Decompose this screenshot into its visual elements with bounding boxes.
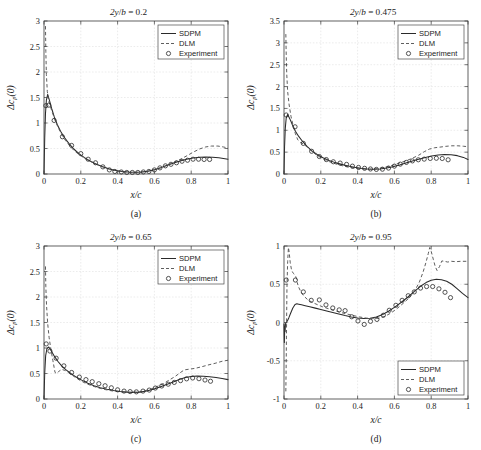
svg-text:0.8: 0.8 — [186, 177, 196, 186]
panel-title: 2y/b = 0.65 — [110, 232, 152, 242]
legend-sdpm-label: SDPM — [419, 365, 441, 374]
svg-text:1: 1 — [226, 402, 230, 411]
panel-caption: (b) — [371, 209, 382, 220]
legend-sdpm-label: SDPM — [179, 254, 201, 263]
y-axis-label: Δcp(0) — [245, 85, 257, 110]
series-experiment-markers — [44, 103, 212, 175]
series-experiment-markers — [44, 342, 213, 394]
svg-text:0: 0 — [36, 395, 40, 404]
svg-text:0.2: 0.2 — [316, 177, 326, 186]
svg-text:1: 1 — [36, 344, 40, 353]
svg-text:-1: -1 — [273, 395, 280, 404]
chart-panel-a: 2y/b = 0.200.20.40.60.8100.511.522.53x/c… — [0, 0, 240, 225]
x-axis-label: x/c — [369, 189, 382, 200]
y-axis-label: Δcp(0) — [5, 85, 17, 110]
svg-text:2: 2 — [36, 293, 40, 302]
legend-dlm-label: DLM — [419, 39, 435, 48]
svg-text:0.8: 0.8 — [426, 177, 436, 186]
svg-text:0.5: 0.5 — [30, 370, 40, 379]
x-axis-label: x/c — [129, 189, 142, 200]
legend-dlm-label: DLM — [179, 39, 195, 48]
svg-text:0: 0 — [282, 177, 286, 186]
chart-panel-d: 2y/b = 0.9500.20.40.60.81-1-0.500.51x/cΔ… — [240, 225, 480, 450]
chart-panel-c: 2y/b = 0.6500.20.40.60.8100.511.522.53x/… — [0, 225, 240, 450]
svg-text:0.5: 0.5 — [30, 145, 40, 154]
series-sdpm-line — [44, 94, 228, 174]
panel-caption: (a) — [131, 209, 141, 220]
svg-text:Δcp(0): Δcp(0) — [5, 85, 17, 110]
svg-text:Δcp(0): Δcp(0) — [245, 85, 257, 110]
svg-text:0.6: 0.6 — [149, 177, 159, 186]
svg-text:0: 0 — [42, 177, 46, 186]
series-experiment-markers — [284, 278, 453, 327]
legend-experiment-label: Experiment — [179, 49, 218, 58]
legend: SDPMDLMExperiment — [398, 361, 464, 395]
svg-text:Δcp(0): Δcp(0) — [245, 310, 257, 335]
svg-text:2.5: 2.5 — [30, 268, 40, 277]
svg-text:0.6: 0.6 — [389, 402, 399, 411]
svg-text:0.4: 0.4 — [112, 177, 123, 186]
chart-panel-b: 2y/b = 0.47500.20.40.60.8100.511.522.533… — [240, 0, 480, 225]
svg-text:0.4: 0.4 — [352, 402, 363, 411]
svg-text:0.8: 0.8 — [426, 402, 436, 411]
svg-text:3: 3 — [36, 17, 40, 26]
svg-text:2y/b = 0.475: 2y/b = 0.475 — [350, 7, 397, 17]
legend: SDPMDLMExperiment — [158, 250, 224, 284]
panel-title: 2y/b = 0.2 — [110, 7, 147, 17]
svg-text:0: 0 — [42, 402, 46, 411]
svg-text:1: 1 — [226, 177, 230, 186]
legend: SDPMDLMExperiment — [398, 25, 464, 59]
legend-sdpm-label: SDPM — [179, 29, 201, 38]
svg-text:0.6: 0.6 — [389, 177, 399, 186]
panel-title: 2y/b = 0.95 — [350, 232, 392, 242]
svg-text:1: 1 — [466, 402, 470, 411]
svg-text:3: 3 — [276, 39, 280, 48]
svg-text:2: 2 — [36, 68, 40, 77]
panel-caption: (c) — [131, 434, 141, 445]
svg-text:0.2: 0.2 — [316, 402, 326, 411]
svg-text:0: 0 — [282, 402, 286, 411]
series-experiment-markers — [284, 113, 450, 172]
svg-text:1.5: 1.5 — [270, 104, 280, 113]
svg-text:2y/b = 0.95: 2y/b = 0.95 — [350, 232, 392, 242]
legend-sdpm-label: SDPM — [419, 29, 441, 38]
panel-caption: (d) — [371, 434, 382, 445]
svg-text:1: 1 — [276, 242, 280, 251]
svg-text:0.6: 0.6 — [149, 402, 159, 411]
svg-text:2.5: 2.5 — [30, 43, 40, 52]
svg-text:0.5: 0.5 — [270, 148, 280, 157]
svg-text:-0.5: -0.5 — [267, 357, 280, 366]
legend-experiment-label: Experiment — [419, 385, 458, 394]
svg-text:0.2: 0.2 — [76, 177, 86, 186]
svg-text:0.8: 0.8 — [186, 402, 196, 411]
svg-text:2.5: 2.5 — [270, 61, 280, 70]
legend-dlm-label: DLM — [179, 264, 195, 273]
svg-text:Δcp(0): Δcp(0) — [5, 310, 17, 335]
svg-text:1.5: 1.5 — [30, 94, 40, 103]
svg-text:2y/b = 0.65: 2y/b = 0.65 — [110, 232, 152, 242]
svg-text:0: 0 — [276, 319, 280, 328]
svg-text:0.5: 0.5 — [270, 280, 280, 289]
svg-text:2: 2 — [276, 83, 280, 92]
svg-text:0: 0 — [276, 170, 280, 179]
legend-dlm-label: DLM — [419, 375, 435, 384]
legend-experiment-label: Experiment — [179, 274, 218, 283]
series-group — [44, 266, 228, 399]
x-axis-label: x/c — [369, 414, 382, 425]
svg-text:1.5: 1.5 — [30, 319, 40, 328]
figure-container: 2y/b = 0.200.20.40.60.8100.511.522.53x/c… — [0, 0, 481, 450]
svg-text:0.4: 0.4 — [112, 402, 123, 411]
y-axis-label: Δcp(0) — [245, 310, 257, 335]
svg-text:1: 1 — [276, 126, 280, 135]
svg-text:2y/b = 0.2: 2y/b = 0.2 — [110, 7, 147, 17]
svg-text:1: 1 — [36, 119, 40, 128]
series-sdpm-line — [44, 347, 228, 399]
legend-experiment-label: Experiment — [419, 49, 458, 58]
series-sdpm-line — [284, 279, 468, 342]
svg-text:3.5: 3.5 — [270, 17, 280, 26]
panel-title: 2y/b = 0.475 — [350, 7, 397, 17]
y-axis-label: Δcp(0) — [5, 310, 17, 335]
x-axis-label: x/c — [129, 414, 142, 425]
legend: SDPMDLMExperiment — [158, 25, 224, 59]
series-sdpm-line — [284, 115, 468, 174]
